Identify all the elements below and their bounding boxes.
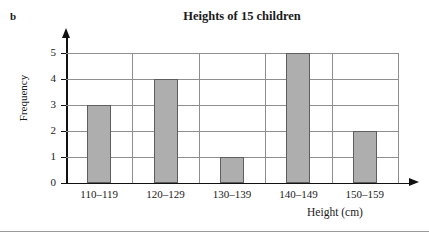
x-tick-label: 110–119 <box>66 188 132 201</box>
y-tick-label-text: 0 <box>36 177 56 188</box>
bottom-divider <box>0 231 429 232</box>
part-label: b <box>10 10 16 22</box>
gridline-vertical <box>199 53 200 183</box>
gridline-horizontal <box>66 105 398 106</box>
x-axis-line <box>66 183 411 185</box>
y-tick-label-text: 1 <box>36 151 56 162</box>
y-tick-label: 0 <box>36 177 56 188</box>
figure-panel: b Heights of 15 children Frequency 01234… <box>0 0 429 240</box>
bar <box>154 79 178 183</box>
bar <box>286 53 310 183</box>
x-tick-label: 150–159 <box>332 188 398 201</box>
chart-title: Heights of 15 children <box>66 9 418 24</box>
y-tick-label: 1 <box>36 151 56 162</box>
gridline-vertical <box>66 53 67 183</box>
bar <box>87 105 111 183</box>
x-tick-label: 120–129 <box>132 188 198 201</box>
gridline-horizontal <box>66 79 398 80</box>
gridline-vertical <box>132 53 133 183</box>
gridline-vertical <box>265 53 266 183</box>
gridline-vertical <box>398 53 399 183</box>
gridline-vertical <box>332 53 333 183</box>
y-tick-label-text: 3 <box>36 99 56 110</box>
bar <box>353 131 377 183</box>
bar <box>220 157 244 183</box>
x-axis-title: Height (cm) <box>252 206 418 219</box>
y-tick-label-text: 2 <box>36 125 56 136</box>
y-tick-label-text: 4 <box>36 73 56 84</box>
y-tick-label-text: 5 <box>36 47 56 58</box>
plot-area <box>66 53 398 183</box>
y-tick-label: 3 <box>36 99 56 110</box>
y-tick-label: 2 <box>36 125 56 136</box>
y-axis-title: Frequency <box>17 48 29 148</box>
y-tick-label: 5 <box>36 47 56 58</box>
y-axis-arrow-icon <box>62 28 70 38</box>
x-tick-label: 130–139 <box>199 188 265 201</box>
y-tick-label: 4 <box>36 73 56 84</box>
gridline-horizontal <box>66 131 398 132</box>
x-tick-label: 140–149 <box>265 188 331 201</box>
x-axis-arrow-icon <box>409 178 419 186</box>
gridline-horizontal <box>66 53 398 54</box>
